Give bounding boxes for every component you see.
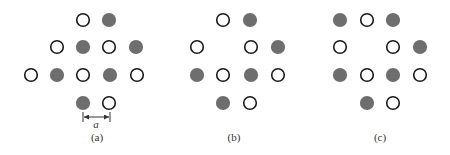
filled-circle: [129, 40, 143, 54]
filled-circle: [386, 13, 400, 27]
filled-circle: [50, 68, 64, 82]
filled-circle: [333, 13, 347, 27]
lattice-figure: a (a) (b) (c): [0, 0, 450, 155]
panel-c: (c): [333, 13, 427, 144]
filled-circle: [76, 40, 90, 54]
open-circle: [77, 14, 90, 27]
panel-b-circles: [190, 13, 285, 110]
open-circle: [217, 69, 230, 82]
open-circle: [414, 69, 427, 82]
filled-circle: [271, 40, 285, 54]
filled-circle: [244, 68, 258, 82]
open-circle: [245, 41, 258, 54]
open-circle: [77, 69, 90, 82]
dimension-label: a: [93, 118, 99, 130]
panel-a-caption: (a): [91, 131, 104, 144]
open-circle: [217, 14, 230, 27]
open-circle: [387, 97, 400, 110]
open-circle: [334, 41, 347, 54]
filled-circle: [190, 68, 204, 82]
open-circle: [361, 14, 374, 27]
filled-circle: [76, 96, 90, 110]
open-circle: [272, 69, 285, 82]
open-circle: [103, 97, 116, 110]
filled-circle: [102, 13, 116, 27]
filled-circle: [386, 68, 400, 82]
filled-circle: [216, 96, 230, 110]
filled-circle: [103, 68, 117, 82]
open-circle: [131, 69, 144, 82]
open-circle: [51, 41, 64, 54]
filled-circle: [413, 40, 427, 54]
open-circle: [361, 69, 374, 82]
panel-b: (b): [190, 13, 285, 144]
panel-a: a (a): [25, 13, 144, 144]
open-circle: [387, 41, 400, 54]
filled-circle: [243, 13, 257, 27]
panel-a-circles: [25, 13, 144, 110]
open-circle: [244, 97, 257, 110]
open-circle: [103, 41, 116, 54]
panel-c-circles: [333, 13, 427, 110]
filled-circle: [333, 68, 347, 82]
open-circle: [191, 41, 204, 54]
panel-c-caption: (c): [374, 131, 387, 144]
open-circle: [25, 69, 38, 82]
filled-circle: [360, 96, 374, 110]
panel-b-caption: (b): [228, 131, 241, 144]
dimension-a: a: [83, 112, 110, 130]
